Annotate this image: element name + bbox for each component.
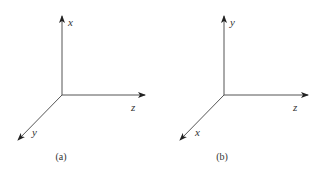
panel-a-vertical-axis-label: x [68, 17, 73, 28]
panel-a-caption: (a) [55, 152, 66, 162]
panel-b-horizontal-axis-label: z [293, 102, 297, 113]
coordinate-systems-figure: x z y (a) y z x (b) [0, 0, 317, 181]
panel-b-caption: (b) [216, 152, 228, 162]
axes-drawing [0, 0, 317, 181]
panel-b-axes [180, 16, 308, 140]
panel-b-vertical-axis-label: y [230, 17, 235, 28]
panel-a-diagonal-axis [18, 95, 62, 140]
panel-b-diagonal-axis-label: x [195, 127, 200, 138]
panel-a-diagonal-axis-label: y [32, 127, 37, 138]
panel-b-diagonal-axis [180, 95, 224, 140]
panel-a-axes [18, 16, 145, 140]
panel-a-horizontal-axis-label: z [131, 102, 135, 113]
